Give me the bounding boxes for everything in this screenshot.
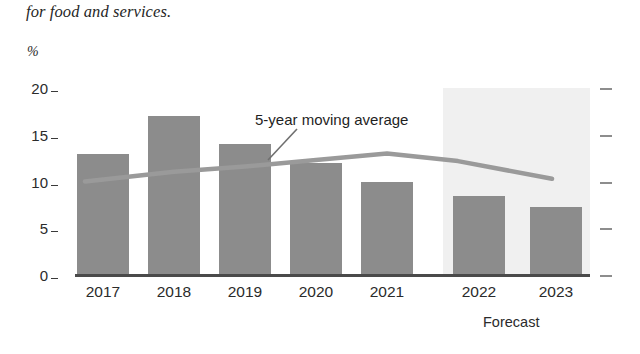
bar-2021: [361, 182, 413, 275]
y-tick-dash-icon: [51, 185, 58, 187]
y-tick-right-15: [600, 135, 612, 137]
chart-container: for food and services. % 20 15 10 5 0 5-…: [0, 0, 640, 354]
bar-2017: [77, 154, 129, 275]
plot-area: 20 15 10 5 0 5-year moving average 2017 …: [0, 0, 640, 354]
x-label-2019: 2019: [211, 283, 279, 301]
moving-average-annotation-label: 5-year moving average: [255, 111, 408, 128]
y-tick-dash-icon: [51, 91, 58, 93]
y-tick-15-label: 15: [31, 127, 48, 144]
bar-2019: [219, 144, 271, 275]
y-tick-0-label: 0: [40, 267, 48, 284]
bar-2023: [530, 207, 582, 275]
x-label-2023: 2023: [522, 283, 590, 301]
y-tick-right-20: [600, 88, 612, 90]
y-tick-10: 10: [22, 174, 58, 191]
forecast-label: Forecast: [483, 314, 583, 330]
y-tick-20: 20: [22, 80, 58, 97]
y-tick-dash-icon: [51, 278, 58, 280]
x-label-2017: 2017: [69, 283, 137, 301]
y-tick-10-label: 10: [31, 174, 48, 191]
bar-2018: [148, 116, 200, 275]
y-tick-5: 5: [22, 220, 58, 237]
x-label-2020: 2020: [282, 283, 350, 301]
y-tick-dash-icon: [51, 231, 58, 233]
y-tick-20-label: 20: [31, 80, 48, 97]
y-tick-right-10: [600, 182, 612, 184]
x-axis-baseline: [75, 274, 590, 277]
y-tick-15: 15: [22, 127, 58, 144]
x-label-2022: 2022: [445, 283, 513, 301]
y-tick-right-5: [600, 228, 612, 230]
x-label-2018: 2018: [140, 283, 208, 301]
bar-2022: [453, 196, 505, 275]
annotation-leader-line: [268, 129, 297, 160]
y-tick-right-0: [600, 275, 612, 277]
bar-2020: [290, 163, 342, 275]
y-tick-0: 0: [22, 267, 58, 284]
y-tick-dash-icon: [51, 138, 58, 140]
x-label-2021: 2021: [353, 283, 421, 301]
y-tick-5-label: 5: [40, 220, 48, 237]
